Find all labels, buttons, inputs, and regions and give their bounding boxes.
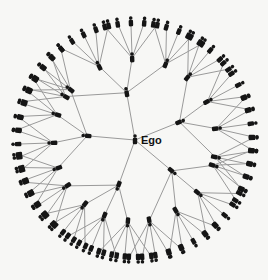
- edge: [55, 186, 67, 226]
- edge: [99, 66, 127, 92]
- edge: [119, 140, 135, 185]
- person-icon: [136, 254, 141, 264]
- person-icon: [79, 28, 87, 39]
- edge: [176, 211, 205, 235]
- person-icon: [248, 148, 258, 153]
- person-icon: [92, 23, 100, 34]
- edge: [19, 115, 57, 117]
- edge: [25, 182, 67, 186]
- edge: [17, 131, 53, 143]
- person-icon: [55, 42, 65, 53]
- edge: [166, 36, 192, 64]
- edge: [18, 143, 53, 158]
- person-icon: [128, 16, 133, 26]
- edge: [213, 165, 242, 189]
- edge: [180, 77, 188, 122]
- edge: [23, 97, 65, 102]
- edge: [132, 24, 157, 58]
- edge: [213, 164, 251, 166]
- network-graph: [0, 0, 268, 280]
- person-icon: [162, 58, 170, 69]
- edge: [85, 205, 86, 247]
- ego-network-diagram: Ego: [0, 0, 268, 280]
- edge: [99, 222, 128, 253]
- person-icon: [52, 165, 63, 173]
- person-icon: [100, 211, 108, 222]
- person-icon: [13, 113, 24, 119]
- person-icon: [176, 24, 184, 35]
- person-icon: [163, 20, 170, 31]
- person-icon: [67, 34, 76, 45]
- edge: [99, 25, 108, 66]
- person-icon: [115, 180, 123, 191]
- person-icon: [234, 80, 245, 89]
- ego-label: Ego: [141, 134, 162, 146]
- edge: [65, 93, 126, 97]
- edge: [57, 115, 87, 136]
- edge: [85, 185, 119, 205]
- person-icon: [81, 242, 89, 253]
- person-icon: [229, 201, 240, 210]
- person-icon: [51, 111, 62, 118]
- edge: [172, 165, 213, 171]
- person-icon: [81, 133, 91, 138]
- edge: [61, 48, 99, 66]
- edge: [87, 136, 135, 140]
- edge: [149, 171, 172, 221]
- edge: [207, 97, 244, 102]
- person-icon: [108, 251, 114, 262]
- edge: [67, 185, 119, 186]
- person-icon: [95, 60, 103, 71]
- edge: [213, 165, 236, 200]
- person-icon: [123, 87, 129, 98]
- person-icon: [11, 142, 21, 147]
- edge: [188, 35, 189, 77]
- edge: [198, 193, 240, 194]
- person-icon: [113, 252, 119, 263]
- edge: [216, 98, 245, 129]
- person-icon: [125, 217, 130, 227]
- edge: [207, 63, 224, 102]
- edge: [79, 216, 105, 244]
- edge: [127, 64, 166, 93]
- person-nodes: [11, 16, 259, 264]
- edge: [72, 40, 99, 66]
- edge: [166, 43, 203, 64]
- edge: [104, 26, 132, 58]
- edge: [70, 90, 87, 136]
- edge: [172, 171, 176, 211]
- person-icon: [247, 121, 258, 127]
- edge: [169, 211, 176, 253]
- person-icon: [142, 16, 147, 26]
- edge: [216, 129, 253, 137]
- person-icon: [133, 134, 137, 144]
- edge: [166, 26, 167, 64]
- edge: [19, 117, 53, 142]
- edge: [207, 102, 249, 110]
- edge: [132, 22, 144, 58]
- edge: [207, 73, 232, 101]
- edge: [118, 23, 133, 58]
- person-icon: [208, 162, 219, 169]
- person-icon: [115, 17, 121, 28]
- edge: [128, 222, 138, 258]
- edge: [103, 216, 104, 254]
- edge: [28, 90, 70, 91]
- person-icon: [122, 253, 127, 263]
- edge: [127, 58, 132, 93]
- person-icon: [212, 126, 223, 132]
- person-icon: [249, 136, 259, 141]
- edge: [28, 91, 57, 115]
- person-icon: [190, 237, 199, 248]
- edge: [149, 221, 181, 249]
- person-icon: [68, 236, 77, 247]
- person-icon: [140, 253, 145, 263]
- edge: [127, 93, 135, 140]
- edge: [119, 185, 128, 222]
